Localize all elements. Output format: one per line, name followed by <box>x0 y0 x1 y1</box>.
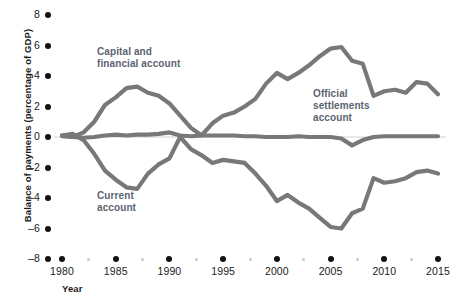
annotation-line: financial account <box>97 58 180 70</box>
annotation-line: account <box>313 112 370 124</box>
series-annotation-1: Capital andfinancial account <box>97 46 180 70</box>
series-annotation-2: Currentaccount <box>97 190 136 214</box>
annotation-line: Current <box>97 190 136 202</box>
chart-container: Balance of payments (percentage of GDP) … <box>0 0 460 306</box>
x-axis-title: Year <box>62 283 82 294</box>
annotation-line: settlements <box>313 100 370 112</box>
annotation-line: Capital and <box>97 46 180 58</box>
series-line-3 <box>62 132 438 145</box>
plot-area <box>0 0 460 306</box>
series-annotation-3: Officialsettlementsaccount <box>313 88 370 124</box>
series-line-2 <box>62 134 438 229</box>
annotation-line: account <box>97 202 136 214</box>
annotation-line: Official <box>313 88 370 100</box>
